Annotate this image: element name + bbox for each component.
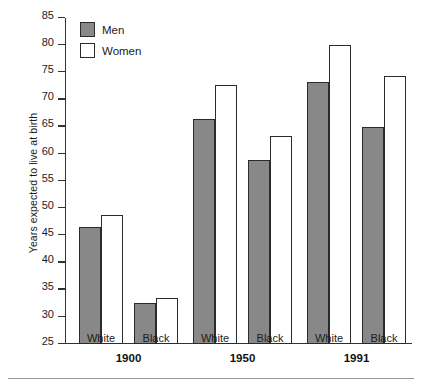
bottom-divider <box>8 378 414 379</box>
y-tick: 70 <box>58 98 65 99</box>
y-axis-line <box>65 18 66 344</box>
y-tick-label: 80 <box>26 36 54 48</box>
bar-1950-black-men <box>248 160 270 344</box>
y-tick: 35 <box>58 288 65 289</box>
plot-area: 25303540455055606570758085 <box>65 18 412 344</box>
bar-1991-white-women <box>329 45 351 344</box>
legend-item-men: Men <box>80 19 141 40</box>
y-tick: 85 <box>58 17 65 18</box>
x-category-label: Black <box>136 332 176 344</box>
x-category-label: White <box>309 332 349 344</box>
x-category-label: Black <box>364 332 404 344</box>
x-group-label: 1991 <box>327 352 387 364</box>
y-tick-label: 60 <box>26 145 54 157</box>
y-tick: 55 <box>58 180 65 181</box>
y-tick: 65 <box>58 125 65 126</box>
y-tick: 80 <box>58 44 65 45</box>
bar-chart: Years expected to live at birth 25303540… <box>0 0 422 387</box>
y-tick-label: 50 <box>26 199 54 211</box>
y-tick-label: 55 <box>26 172 54 184</box>
bar-1900-white-men <box>79 227 101 344</box>
legend-swatch-men-icon <box>80 22 95 37</box>
x-group-label: 1950 <box>213 352 273 364</box>
legend-label-men: Men <box>102 24 124 36</box>
bar-1991-black-women <box>384 76 406 344</box>
legend-swatch-women-icon <box>80 43 95 58</box>
y-tick: 30 <box>58 316 65 317</box>
y-tick-label: 85 <box>26 9 54 21</box>
x-category-label: White <box>195 332 235 344</box>
y-tick: 60 <box>58 153 65 154</box>
y-tick-label: 45 <box>26 226 54 238</box>
y-tick-label: 30 <box>26 308 54 320</box>
bar-1991-black-men <box>362 127 384 344</box>
y-tick-label: 75 <box>26 63 54 75</box>
y-tick-label: 35 <box>26 280 54 292</box>
bar-1950-white-men <box>193 119 215 344</box>
x-category-label: White <box>81 332 121 344</box>
y-tick: 75 <box>58 71 65 72</box>
bar-1991-white-men <box>307 82 329 344</box>
y-tick: 50 <box>58 207 65 208</box>
legend: Men Women <box>80 19 141 61</box>
x-category-label: Black <box>250 332 290 344</box>
bar-1950-white-women <box>215 85 237 344</box>
bar-1950-black-women <box>270 136 292 344</box>
y-tick-label: 65 <box>26 117 54 129</box>
x-group-label: 1900 <box>99 352 159 364</box>
y-tick: 45 <box>58 234 65 235</box>
y-tick-label: 25 <box>26 335 54 347</box>
y-tick: 25 <box>58 343 65 344</box>
legend-label-women: Women <box>102 45 141 57</box>
y-tick-label: 70 <box>26 90 54 102</box>
y-tick: 40 <box>58 261 65 262</box>
bar-1900-white-women <box>101 215 123 344</box>
legend-item-women: Women <box>80 40 141 61</box>
y-tick-label: 40 <box>26 253 54 265</box>
